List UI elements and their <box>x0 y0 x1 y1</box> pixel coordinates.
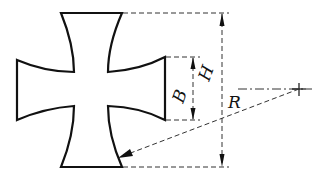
r-label: R <box>227 92 241 112</box>
b-arrow-top <box>191 57 196 69</box>
r-dimension-line <box>128 89 299 154</box>
h-label: H <box>194 61 219 84</box>
b-label: B <box>168 87 191 107</box>
h-arrow-top <box>220 13 225 26</box>
cross-outline <box>17 13 165 167</box>
b-arrow-bottom <box>191 108 196 120</box>
r-arrow <box>118 149 133 158</box>
h-arrow-bottom <box>220 154 225 167</box>
cross-diagram: H B R <box>0 0 322 179</box>
